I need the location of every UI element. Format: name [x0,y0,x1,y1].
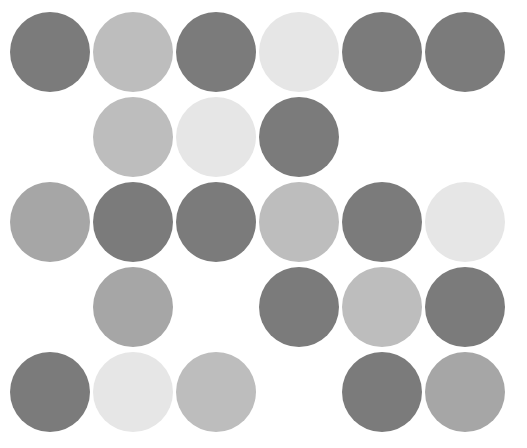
circle-dark [10,12,90,92]
circle-dark [10,352,90,432]
circle-dark [259,97,339,177]
circle-dark [176,12,256,92]
circle-light [176,352,256,432]
circle-medium [425,352,505,432]
circle-light [259,182,339,262]
circle-pale [93,352,173,432]
circle-light [342,267,422,347]
circle-dark [342,352,422,432]
circle-light [93,97,173,177]
circle-pale [259,12,339,92]
circle-medium [10,182,90,262]
circle-dark [93,182,173,262]
circle-light [93,12,173,92]
circle-dark [342,12,422,92]
circle-pale [425,182,505,262]
circle-dark [259,267,339,347]
circle-dark [342,182,422,262]
circle-dark [425,267,505,347]
circle-pale [176,97,256,177]
circle-dark [425,12,505,92]
circle-grid [0,0,527,448]
circle-medium [93,267,173,347]
circle-dark [176,182,256,262]
